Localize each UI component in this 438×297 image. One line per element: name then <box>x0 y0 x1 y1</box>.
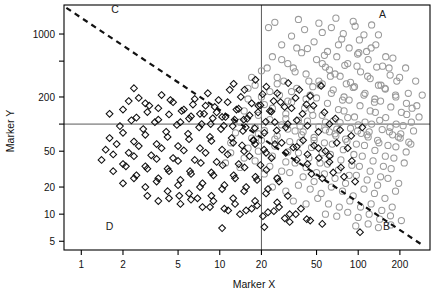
data-point <box>361 32 367 38</box>
data-point <box>311 178 317 184</box>
data-point <box>131 138 138 145</box>
data-point <box>372 147 378 153</box>
data-point <box>385 175 391 181</box>
data-point <box>347 125 353 131</box>
data-point <box>319 29 325 35</box>
data-point <box>260 213 267 220</box>
data-point <box>131 85 138 92</box>
data-point <box>303 201 309 207</box>
data-point <box>295 150 301 156</box>
data-point <box>365 57 371 63</box>
data-point <box>392 188 398 194</box>
data-point <box>237 211 244 218</box>
data-point <box>304 45 310 51</box>
data-point <box>379 207 385 213</box>
data-point <box>285 60 291 66</box>
data-point <box>279 122 285 128</box>
y-tick-label: 5 <box>49 236 55 247</box>
data-point <box>393 144 399 150</box>
data-point <box>388 104 394 110</box>
data-point <box>334 213 340 219</box>
data-point <box>298 50 304 56</box>
data-point <box>377 117 383 123</box>
data-point <box>269 184 275 190</box>
data-point <box>387 213 393 219</box>
data-point <box>202 149 209 156</box>
data-point <box>224 99 231 106</box>
data-point <box>357 69 363 75</box>
y-tick-label: 50 <box>44 146 56 157</box>
y-tick-label: 10 <box>44 209 56 220</box>
data-point <box>356 163 362 169</box>
data-point <box>377 98 383 104</box>
data-point <box>328 24 334 30</box>
data-point <box>310 112 316 118</box>
x-tick-label: 10 <box>214 259 226 270</box>
x-axis-ticks-group: 125102050100200 <box>79 250 409 270</box>
data-point <box>166 195 173 202</box>
data-point <box>368 201 374 207</box>
data-point <box>335 42 341 48</box>
data-point <box>377 216 383 222</box>
data-point <box>255 148 261 154</box>
data-point <box>403 100 409 106</box>
data-point <box>269 54 275 60</box>
data-point <box>199 204 206 211</box>
data-point <box>401 160 407 166</box>
data-point <box>374 64 380 70</box>
data-point <box>215 97 222 104</box>
data-point <box>313 95 319 101</box>
quadrant-label-c: C <box>111 3 119 15</box>
data-point <box>370 158 376 164</box>
data-point <box>357 229 364 236</box>
data-point <box>346 97 352 103</box>
data-point <box>364 177 370 183</box>
data-point <box>341 108 347 114</box>
data-point <box>207 204 214 211</box>
data-point <box>219 146 226 153</box>
data-point <box>313 57 319 63</box>
data-point <box>177 201 184 208</box>
data-point <box>264 65 270 71</box>
data-point <box>278 139 285 146</box>
x-tick-label: 5 <box>175 259 181 270</box>
x-tick-label: 20 <box>256 259 268 270</box>
data-point <box>403 149 409 155</box>
data-point <box>281 78 287 84</box>
data-point <box>265 209 272 216</box>
data-point <box>369 22 375 28</box>
data-point <box>158 145 165 152</box>
data-point <box>410 128 416 134</box>
data-point <box>110 168 117 175</box>
y-tick-label: 1000 <box>33 29 56 40</box>
data-point <box>319 220 326 227</box>
data-point <box>308 144 314 150</box>
data-point <box>400 123 406 129</box>
data-point <box>300 174 306 180</box>
data-point <box>316 20 322 26</box>
data-point <box>279 168 285 174</box>
data-point <box>379 126 385 132</box>
data-point <box>334 54 340 60</box>
data-point <box>248 100 255 107</box>
data-point <box>364 48 370 54</box>
quadrant-label-b: B <box>383 220 390 232</box>
data-point <box>287 138 293 144</box>
data-point <box>396 180 402 186</box>
data-point <box>338 157 344 163</box>
series-0 <box>222 15 425 231</box>
data-point <box>351 151 357 157</box>
data-point <box>361 92 367 98</box>
data-point <box>295 16 301 22</box>
data-point <box>398 217 404 223</box>
data-point <box>98 157 105 164</box>
data-point <box>413 78 419 84</box>
x-tick-label: 200 <box>392 259 409 270</box>
data-point <box>204 90 211 97</box>
data-point <box>175 143 182 150</box>
y-axis-ticks-group: 51020502001000 <box>33 29 64 247</box>
data-point <box>345 209 351 215</box>
data-point <box>373 42 379 48</box>
data-point <box>148 152 155 159</box>
data-point <box>288 88 294 94</box>
